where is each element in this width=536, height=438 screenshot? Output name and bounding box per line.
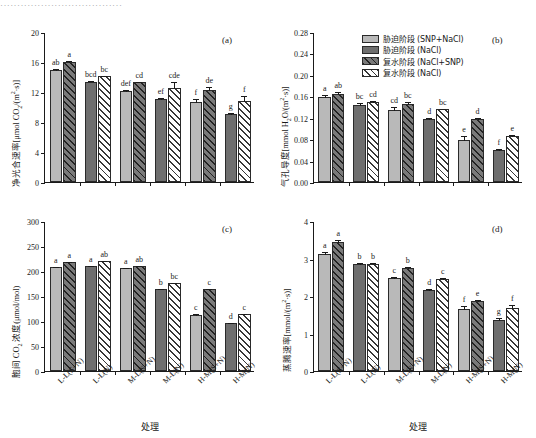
legend-item: 胁迫阶段 (NaCl) bbox=[362, 45, 464, 54]
error-bar-cap bbox=[228, 113, 234, 114]
significance-letter: d bbox=[229, 312, 233, 321]
error-bar-cap bbox=[193, 314, 199, 315]
error-bar bbox=[174, 82, 175, 89]
significance-letter: d bbox=[476, 107, 480, 116]
error-bar-cap bbox=[66, 262, 72, 263]
error-bar-cap bbox=[206, 289, 212, 290]
panel-d-plot-area: 01234aaL-L(S+N)bbL-L(N)cbM-L(S+N)dcM-L(N… bbox=[313, 222, 522, 372]
error-bar-cap bbox=[193, 99, 199, 100]
error-bar-cap bbox=[66, 61, 72, 62]
x-axis-tick bbox=[185, 371, 186, 375]
panel-a: 净光合速率[μmol CO2/(m2·s)] 048121620ababcdbc… bbox=[0, 11, 268, 211]
error-bar-cap bbox=[461, 136, 467, 137]
panel-b-ylabel: 气孔导度[mmol H2O/(m2·s)] bbox=[278, 86, 292, 187]
y-axis-tick-label: 0.20 bbox=[294, 71, 308, 80]
significance-letter: b bbox=[406, 256, 410, 265]
error-bar-cap bbox=[357, 263, 363, 264]
legend-label: 胁迫阶段 (NaCl) bbox=[383, 44, 441, 55]
error-bar-cap bbox=[475, 300, 481, 301]
error-bar-cap bbox=[440, 278, 446, 279]
bar bbox=[506, 136, 519, 182]
x-axis-tick bbox=[80, 182, 81, 186]
bar bbox=[458, 309, 471, 371]
panel-d-ylabel: 蒸腾速率[mmol/(m2·s)] bbox=[280, 288, 292, 372]
bar bbox=[225, 114, 238, 182]
bar bbox=[85, 82, 98, 183]
bar bbox=[203, 289, 216, 371]
error-bar-cap bbox=[426, 289, 432, 290]
error-bar-cap bbox=[88, 81, 94, 82]
y-axis-tick-label: 2 bbox=[304, 293, 308, 302]
bar bbox=[332, 94, 345, 182]
legend-swatch-icon bbox=[362, 46, 379, 54]
y-axis-tick-label: 1 bbox=[304, 330, 308, 339]
y-axis-tick-label: 0.00 bbox=[294, 179, 308, 188]
significance-letter: e bbox=[462, 125, 466, 134]
x-axis-tick bbox=[220, 371, 221, 375]
y-axis-tick-label: 0 bbox=[35, 179, 39, 188]
significance-letter: f bbox=[243, 85, 246, 94]
bar bbox=[190, 315, 203, 372]
y-axis-tick bbox=[310, 297, 314, 298]
error-bar-cap bbox=[509, 135, 515, 136]
bar bbox=[190, 102, 203, 182]
error-bar-cap bbox=[357, 103, 363, 104]
significance-letter: f bbox=[497, 138, 500, 147]
bar bbox=[402, 104, 415, 182]
significance-letter: c bbox=[207, 278, 211, 287]
y-axis-tick-label: 0.12 bbox=[294, 114, 308, 123]
significance-letter: b bbox=[358, 252, 362, 261]
legend-item: 胁迫阶段 (SNP+NaCl) bbox=[362, 34, 464, 43]
y-axis-tick bbox=[41, 247, 45, 248]
bar bbox=[367, 102, 380, 182]
significance-letter: c bbox=[242, 303, 246, 312]
bar bbox=[458, 140, 471, 182]
bar bbox=[436, 279, 449, 371]
significance-letter: ab bbox=[52, 58, 60, 67]
significance-letter: a bbox=[323, 84, 327, 93]
error-bar-cap bbox=[171, 82, 177, 83]
significance-letter: a bbox=[67, 251, 71, 260]
significance-letter: cd bbox=[135, 71, 143, 80]
error-bar-cap bbox=[405, 102, 411, 103]
bar bbox=[203, 90, 216, 182]
legend-label: 复水阶段 (NaCl+SNP) bbox=[383, 56, 464, 67]
error-bar-cap bbox=[123, 268, 129, 269]
x-axis-tick bbox=[115, 371, 116, 375]
y-axis-tick-label: 0.16 bbox=[294, 93, 308, 102]
significance-letter: cd bbox=[391, 96, 399, 105]
error-bar-cap bbox=[440, 109, 446, 110]
y-axis-tick bbox=[41, 33, 45, 34]
error-bar-cap bbox=[426, 118, 432, 119]
panel-b: 气孔导度[mmol H2O/(m2·s)] 0.000.040.080.120.… bbox=[268, 11, 536, 211]
y-axis-tick bbox=[41, 322, 45, 323]
y-axis-tick-label: 0 bbox=[35, 368, 39, 377]
bar bbox=[367, 264, 380, 371]
x-axis-tick bbox=[453, 182, 454, 186]
bar bbox=[318, 97, 331, 182]
panel-c-xlabel: 处理 bbox=[141, 420, 159, 433]
panel-d-xlabel: 处理 bbox=[409, 420, 427, 433]
legend-swatch-icon bbox=[362, 69, 379, 77]
y-axis-tick bbox=[41, 297, 45, 298]
significance-letter: a bbox=[336, 229, 340, 238]
y-axis-tick-label: 0 bbox=[304, 368, 308, 377]
significance-letter: a bbox=[323, 241, 327, 250]
significance-letter: bc bbox=[170, 272, 178, 281]
y-axis-tick-label: 300 bbox=[27, 218, 39, 227]
bar bbox=[50, 70, 63, 182]
error-bar-cap bbox=[241, 96, 247, 97]
y-axis-tick bbox=[310, 97, 314, 98]
significance-letter: bc bbox=[404, 91, 412, 100]
error-bar-cap bbox=[88, 266, 94, 267]
legend-swatch-icon bbox=[362, 57, 379, 65]
error-bar-cap bbox=[171, 283, 177, 284]
x-axis-tick bbox=[349, 371, 350, 375]
error-bar-cap bbox=[158, 98, 164, 99]
x-axis-tick bbox=[384, 182, 385, 186]
panel-c-ylabel: 胞间 CO2 浓度(μmol/mol) bbox=[9, 286, 23, 378]
significance-letter: cd bbox=[369, 90, 377, 99]
y-axis-tick bbox=[310, 33, 314, 34]
error-bar-cap bbox=[370, 101, 376, 102]
y-axis-tick-label: 100 bbox=[27, 318, 39, 327]
